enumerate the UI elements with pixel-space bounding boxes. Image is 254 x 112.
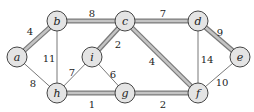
edge-weight-label: 2 xyxy=(115,39,121,50)
edge-weight-label: 11 xyxy=(43,53,56,64)
edge-weight-label: 2 xyxy=(160,99,166,110)
node-label: g xyxy=(121,87,128,100)
node-d: d xyxy=(188,11,208,31)
node-label: d xyxy=(194,15,201,28)
edge-weight-label: 14 xyxy=(201,54,214,65)
edge-weight-label: 8 xyxy=(89,8,95,19)
edge-c-f xyxy=(125,21,198,93)
edge-weight-label: 8 xyxy=(30,78,36,89)
edge-weight-label: 10 xyxy=(216,77,229,88)
edge-weight-label: 7 xyxy=(69,67,75,78)
edge-weight-label: 7 xyxy=(160,8,166,19)
edge-weight-label: 6 xyxy=(110,69,116,80)
edge-weight-label: 9 xyxy=(217,27,223,38)
node-label: i xyxy=(90,51,94,64)
edge-weight-label: 1 xyxy=(89,99,95,110)
node-label: c xyxy=(122,15,128,28)
node-label: h xyxy=(53,87,60,100)
edge-weight-label: 4 xyxy=(149,56,155,67)
node-h: h xyxy=(47,83,67,103)
edge-weight-label: 4 xyxy=(27,26,33,37)
node-label: b xyxy=(53,15,60,28)
graph-diagram: 48792412811761410 abcdefghi xyxy=(0,0,254,112)
node-i: i xyxy=(82,47,102,67)
node-label: a xyxy=(14,51,21,64)
node-label: e xyxy=(237,51,244,64)
node-f: f xyxy=(188,83,208,103)
node-e: e xyxy=(230,47,250,67)
node-c: c xyxy=(115,11,135,31)
node-a: a xyxy=(7,47,27,67)
node-b: b xyxy=(47,11,67,31)
node-g: g xyxy=(115,83,135,103)
